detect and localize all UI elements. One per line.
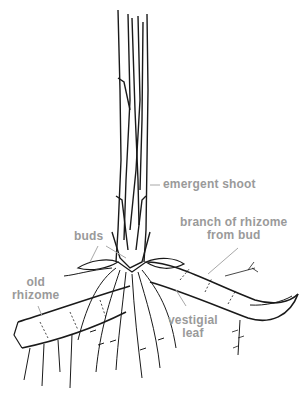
label-branch-of-rhizome: branch of rhizome from bud (180, 216, 287, 242)
buds-leader-left (90, 246, 98, 262)
emergent-shoot-drawing (112, 10, 150, 272)
label-vestigial-line2: leaf (168, 327, 218, 340)
rhizome-illustration (0, 0, 307, 396)
label-buds: buds (74, 230, 103, 243)
label-old-line2: rhizome (12, 289, 59, 302)
label-branch-line2: from bud (180, 229, 287, 242)
label-old-rhizome: old rhizome (12, 276, 59, 302)
branch-leader (208, 248, 238, 274)
label-vestigial-leaf: vestigial leaf (168, 314, 218, 340)
new-rhizome-branch (148, 262, 298, 355)
label-emergent-shoot: emergent shoot (163, 178, 256, 191)
